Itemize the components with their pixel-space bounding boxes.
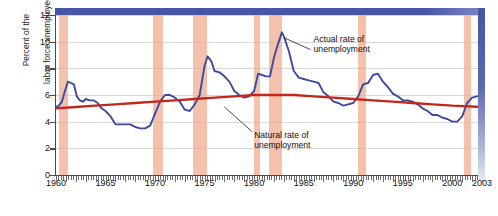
annotation-leader-lines bbox=[0, 0, 498, 216]
natural-rate-leader bbox=[224, 107, 252, 132]
unemployment-chart: Percent of the labor force unemployed 02… bbox=[0, 0, 498, 216]
actual-rate-leader bbox=[284, 38, 311, 50]
